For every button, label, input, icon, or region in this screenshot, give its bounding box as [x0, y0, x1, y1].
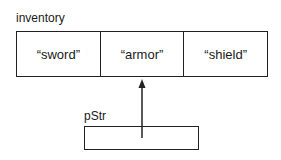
pointer-arrow-icon — [0, 0, 281, 160]
